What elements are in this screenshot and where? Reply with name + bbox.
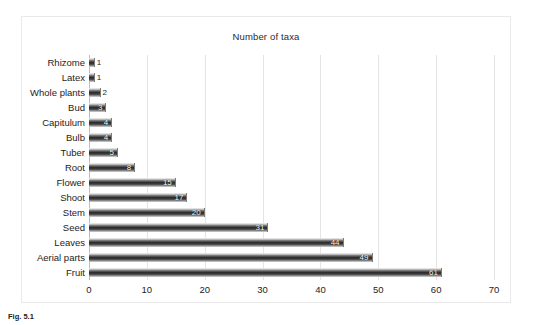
bar-row: Root8 (89, 160, 494, 175)
bar-value-label: 15 (89, 178, 176, 187)
x-tick-label: 40 (315, 284, 326, 295)
category-label: Leaves (54, 235, 85, 250)
chart-title: Number of taxa (22, 31, 510, 42)
category-label: Aerial parts (37, 250, 85, 265)
bar-value-label: 4 (89, 118, 112, 127)
bar-row: Aerial parts49 (89, 250, 494, 265)
bar-row: Whole plants2 (89, 85, 494, 100)
x-axis: 010203040506070 (89, 280, 494, 302)
plot-area: Rhizome1Latex1Whole plants2Bud3Capitulum… (89, 55, 494, 280)
category-label: Rhizome (48, 55, 86, 70)
bar-value-label: 1 (97, 73, 101, 82)
category-label: Seed (63, 220, 85, 235)
bar-value-label: 3 (89, 103, 106, 112)
bar-row: Tuber5 (89, 145, 494, 160)
bar-value-label: 1 (97, 58, 101, 67)
bar-value-label: 17 (89, 193, 187, 202)
category-label: Stem (63, 205, 85, 220)
gridline-70 (494, 55, 495, 280)
category-label: Bulb (66, 130, 85, 145)
bar-value-label: 44 (89, 238, 344, 247)
x-tick-label: 10 (142, 284, 153, 295)
bar-row: Shoot17 (89, 190, 494, 205)
bar-row: Fruit61 (89, 265, 494, 280)
bar-row: Seed31 (89, 220, 494, 235)
bar-value-label: 8 (89, 163, 135, 172)
category-label: Tuber (61, 145, 85, 160)
bar-row: Leaves44 (89, 235, 494, 250)
figure-caption: Fig. 5.1 (8, 312, 528, 325)
bar-row: Rhizome1 (89, 55, 494, 70)
bar-row: Stem20 (89, 205, 494, 220)
category-label: Shoot (60, 190, 85, 205)
bar-row: Bud3 (89, 100, 494, 115)
x-tick-label: 30 (257, 284, 268, 295)
category-label: Flower (56, 175, 85, 190)
figure-container: Number of taxa Rhizome1Latex1Whole plant… (0, 0, 534, 325)
bar-value-label: 2 (103, 88, 107, 97)
x-tick-label: 60 (431, 284, 442, 295)
bar-row: Capitulum4 (89, 115, 494, 130)
bar-value-label: 4 (89, 133, 112, 142)
bar-row: Latex1 (89, 70, 494, 85)
bar-value-label: 5 (89, 148, 118, 157)
bar-value-label: 61 (89, 268, 442, 277)
chart-frame: Number of taxa Rhizome1Latex1Whole plant… (21, 16, 511, 303)
x-tick-label: 20 (199, 284, 210, 295)
x-tick-label: 70 (489, 284, 500, 295)
bar (89, 58, 95, 67)
figure-caption-label: Fig. 5.1 (8, 312, 34, 321)
bar (89, 73, 95, 82)
category-label: Latex (62, 70, 85, 85)
category-label: Bud (68, 100, 85, 115)
bar-row: Flower15 (89, 175, 494, 190)
bar (89, 88, 101, 97)
bar-row: Bulb4 (89, 130, 494, 145)
bar-value-label: 20 (89, 208, 205, 217)
x-tick-label: 50 (373, 284, 384, 295)
category-label: Root (65, 160, 85, 175)
bar-series: Rhizome1Latex1Whole plants2Bud3Capitulum… (89, 55, 494, 280)
bar-value-label: 31 (89, 223, 268, 232)
category-label: Capitulum (42, 115, 85, 130)
category-label: Whole plants (30, 85, 85, 100)
bar-value-label: 49 (89, 253, 373, 262)
category-label: Fruit (66, 265, 85, 280)
x-tick-label: 0 (86, 284, 91, 295)
